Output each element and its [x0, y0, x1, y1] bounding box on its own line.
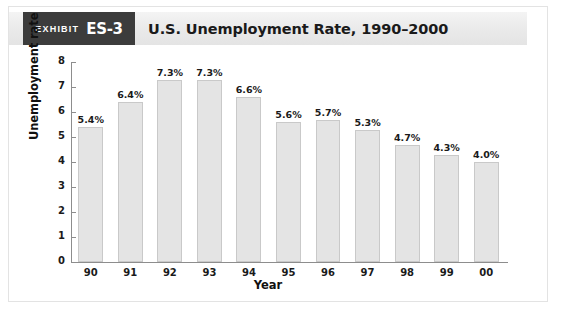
- x-axis-label: Year: [9, 278, 527, 292]
- y-tick-label: 5: [49, 130, 65, 141]
- y-tick-label: 2: [49, 205, 65, 216]
- bar-value-label: 4.7%: [394, 132, 420, 143]
- bar-97[interactable]: 5.3%: [355, 130, 380, 263]
- bar-90[interactable]: 5.4%: [78, 127, 103, 262]
- bar-value-label: 6.4%: [117, 89, 143, 100]
- bar-00[interactable]: 4.0%: [474, 162, 499, 262]
- bar-value-label: 5.6%: [275, 109, 301, 120]
- x-tick-label-96: 96: [321, 267, 335, 278]
- exhibit-badge-word: Exhibit: [35, 24, 79, 34]
- chart-container: Unemployment rate 876543210 5.4%6.4%7.3%…: [9, 48, 527, 298]
- x-tick-label-99: 99: [440, 267, 454, 278]
- x-tick-label-98: 98: [400, 267, 414, 278]
- plot-area: 5.4%6.4%7.3%7.3%6.6%5.6%5.7%5.3%4.7%4.3%…: [71, 62, 506, 262]
- bar-91[interactable]: 6.4%: [118, 102, 143, 262]
- x-tick-label-90: 90: [84, 267, 98, 278]
- bar-94[interactable]: 6.6%: [236, 97, 261, 262]
- bar-value-label: 7.3%: [196, 67, 222, 78]
- bar-99[interactable]: 4.3%: [434, 155, 459, 263]
- x-tick-label-00: 00: [479, 267, 493, 278]
- x-tick-label-92: 92: [163, 267, 177, 278]
- y-tick-label: 0: [49, 255, 65, 266]
- bar-95[interactable]: 5.6%: [276, 122, 301, 262]
- exhibit-badge-number: ES-3: [86, 20, 123, 38]
- bar-93[interactable]: 7.3%: [197, 80, 222, 263]
- y-tick-label: 8: [49, 55, 65, 66]
- exhibit-title: U.S. Unemployment Rate, 1990–2000: [148, 12, 448, 45]
- bar-value-label: 4.0%: [473, 149, 499, 160]
- bar-value-label: 5.4%: [78, 114, 104, 125]
- y-axis-label: Unemployment rate: [27, 13, 41, 140]
- x-axis-line: [71, 262, 508, 263]
- x-tick-label-95: 95: [282, 267, 296, 278]
- exhibit-figure-page: Exhibit ES-3 U.S. Unemployment Rate, 199…: [0, 0, 564, 316]
- bar-96[interactable]: 5.7%: [316, 120, 341, 263]
- y-tick-0: 0: [71, 262, 72, 263]
- x-tick-label-91: 91: [123, 267, 137, 278]
- bar-92[interactable]: 7.3%: [157, 80, 182, 263]
- bar-value-label: 6.6%: [236, 84, 262, 95]
- y-tick-label: 1: [49, 230, 65, 241]
- y-tick-label: 7: [49, 80, 65, 91]
- x-tick-label-97: 97: [361, 267, 375, 278]
- x-tick-label-93: 93: [202, 267, 216, 278]
- bar-value-label: 4.3%: [433, 142, 459, 153]
- y-tick-label: 4: [49, 155, 65, 166]
- bar-value-label: 5.3%: [354, 117, 380, 128]
- bar-98[interactable]: 4.7%: [395, 145, 420, 263]
- x-tick-label-94: 94: [242, 267, 256, 278]
- y-tick-label: 3: [49, 180, 65, 191]
- y-tick-label: 6: [49, 105, 65, 116]
- y-tick-mark: [71, 262, 76, 263]
- bar-value-label: 5.7%: [315, 107, 341, 118]
- bar-value-label: 7.3%: [157, 67, 183, 78]
